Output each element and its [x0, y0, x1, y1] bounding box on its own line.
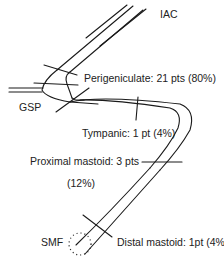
- proximal-mastoid-percent: (12%): [67, 177, 95, 189]
- iac-label: IAC: [160, 8, 178, 20]
- gsp-label: GSP: [19, 101, 41, 113]
- proximal-mastoid-label: Proximal mastoid: 3 pts: [30, 155, 139, 167]
- smf-label: SMF: [41, 236, 63, 248]
- canal-upper-wall: [57, 6, 133, 70]
- perigeniculate-label: Perigeniculate: 21 pts (80%): [84, 72, 216, 84]
- perigeniculate-cut-2: [34, 83, 78, 85]
- tympanic-label: Tympanic: 1 pt (4%): [82, 127, 175, 139]
- canal-lower-wall: [70, 10, 143, 72]
- smf-foramen-icon: [69, 233, 91, 255]
- distal-mastoid-label: Distal mastoid: 1pt (4%): [117, 236, 224, 248]
- iac-wall-upper: [86, 5, 127, 38]
